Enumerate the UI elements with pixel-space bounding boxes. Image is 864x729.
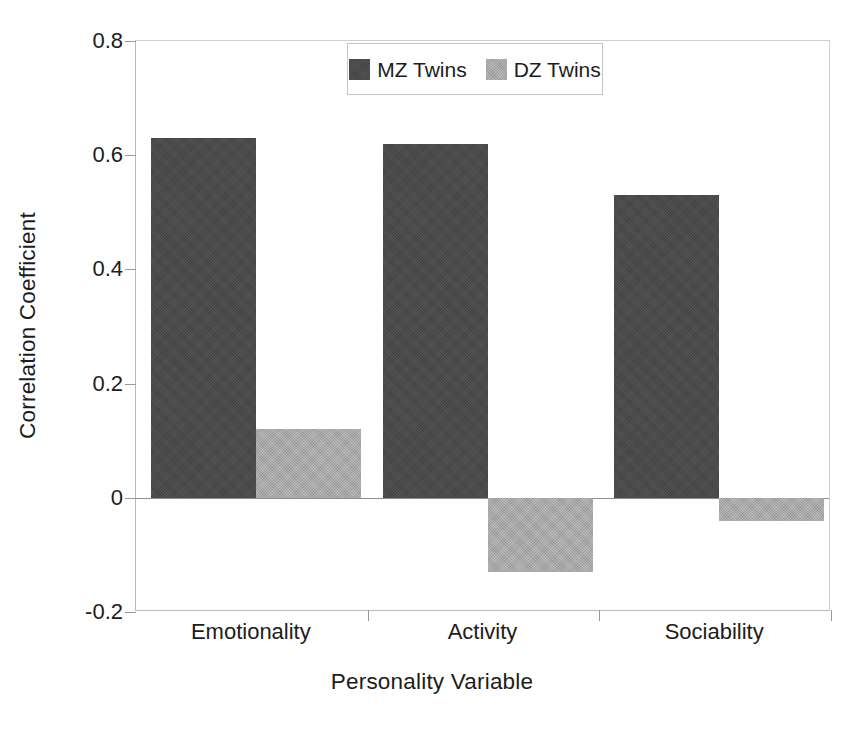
x-tick-mark-1 xyxy=(599,610,600,621)
legend-label-dz: DZ Twins xyxy=(514,59,601,80)
y-tick-label: 0.2 xyxy=(92,373,123,395)
y-tick-mark xyxy=(125,384,136,385)
legend-swatch-mz-icon xyxy=(349,59,370,80)
y-tick-label: 0.6 xyxy=(92,144,123,166)
x-axis-title: Personality Variable xyxy=(0,669,864,695)
legend: MZ Twins DZ Twins xyxy=(347,43,603,95)
y-tick-mark xyxy=(125,41,136,42)
y-tick-mark xyxy=(125,612,136,613)
bar-activity-dz xyxy=(488,498,593,572)
bar-activity-mz xyxy=(383,144,488,498)
x-category-label-emotionality: Emotionality xyxy=(191,621,311,643)
legend-label-mz: MZ Twins xyxy=(377,59,466,80)
x-category-label-sociability: Sociability xyxy=(665,621,764,643)
bar-sociability-dz xyxy=(719,498,824,521)
y-tick-label: 0.8 xyxy=(92,30,123,52)
bar-emotionality-dz xyxy=(256,429,361,498)
y-tick-label: 0 xyxy=(111,487,123,509)
x-tick-mark-0 xyxy=(368,610,369,621)
y-tick-mark xyxy=(125,155,136,156)
y-axis-title: Correlation Coefficient xyxy=(14,40,42,611)
x-tick-mark-2 xyxy=(831,610,832,621)
y-tick-mark xyxy=(125,269,136,270)
bar-chart-figure: Correlation Coefficient 0.80.60.40.20-0.… xyxy=(0,0,864,729)
plot-area: 0.80.60.40.20-0.2 xyxy=(135,40,830,611)
y-tick-label: -0.2 xyxy=(85,601,123,623)
y-tick-mark xyxy=(125,498,136,499)
legend-entry-dz: DZ Twins xyxy=(486,59,601,80)
bar-sociability-mz xyxy=(614,195,719,498)
bar-emotionality-mz xyxy=(151,138,256,498)
legend-swatch-dz-icon xyxy=(486,59,507,80)
x-category-label-activity: Activity xyxy=(448,621,518,643)
y-tick-label: 0.4 xyxy=(92,258,123,280)
legend-entry-mz: MZ Twins xyxy=(349,59,466,80)
